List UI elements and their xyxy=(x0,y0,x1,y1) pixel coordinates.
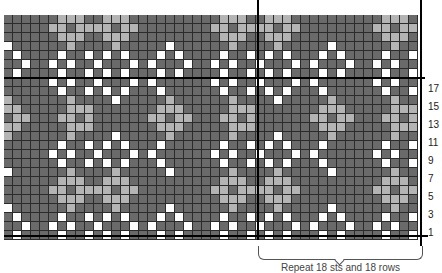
chart-cell xyxy=(4,186,13,195)
chart-cell xyxy=(274,132,283,141)
chart-cell xyxy=(67,186,76,195)
chart-cell xyxy=(283,105,292,114)
chart-cell xyxy=(355,78,364,87)
chart-cell xyxy=(265,123,274,132)
chart-cell xyxy=(13,114,22,123)
chart-cell xyxy=(355,51,364,60)
chart-cell xyxy=(373,132,382,141)
chart-cell xyxy=(319,60,328,69)
chart-cell xyxy=(184,186,193,195)
chart-cell xyxy=(4,87,13,96)
chart-cell xyxy=(310,78,319,87)
chart-cell xyxy=(67,87,76,96)
chart-cell xyxy=(193,60,202,69)
chart-cell xyxy=(139,51,148,60)
chart-cell xyxy=(103,24,112,33)
chart-cell xyxy=(103,42,112,51)
chart-cell xyxy=(193,15,202,24)
chart-cell xyxy=(13,78,22,87)
chart-cell xyxy=(265,24,274,33)
chart-cell xyxy=(94,114,103,123)
chart-cell xyxy=(67,96,76,105)
chart-cell xyxy=(310,105,319,114)
chart-cell xyxy=(301,78,310,87)
chart-cell xyxy=(166,60,175,69)
chart-cell xyxy=(130,213,139,222)
chart-cell xyxy=(274,123,283,132)
chart-cell xyxy=(391,51,400,60)
chart-cell xyxy=(319,78,328,87)
chart-cell xyxy=(31,186,40,195)
knitting-chart-grid xyxy=(4,15,418,240)
chart-cell xyxy=(355,141,364,150)
chart-cell xyxy=(103,33,112,42)
chart-cell xyxy=(382,195,391,204)
chart-cell xyxy=(4,42,13,51)
chart-cell xyxy=(346,195,355,204)
chart-cell xyxy=(193,24,202,33)
chart-cell xyxy=(31,33,40,42)
chart-cell xyxy=(274,15,283,24)
chart-cell xyxy=(319,159,328,168)
chart-cell xyxy=(220,168,229,177)
chart-cell xyxy=(247,177,256,186)
chart-cell xyxy=(175,132,184,141)
chart-cell xyxy=(292,204,301,213)
chart-cell xyxy=(220,141,229,150)
chart-cell xyxy=(112,168,121,177)
chart-cell xyxy=(265,105,274,114)
chart-cell xyxy=(175,24,184,33)
chart-cell xyxy=(283,33,292,42)
chart-cell xyxy=(265,213,274,222)
chart-cell xyxy=(229,195,238,204)
chart-cell xyxy=(49,78,58,87)
chart-cell xyxy=(337,195,346,204)
chart-cell xyxy=(13,132,22,141)
chart-cell xyxy=(238,33,247,42)
chart-cell xyxy=(148,87,157,96)
chart-cell xyxy=(4,204,13,213)
chart-cell xyxy=(247,24,256,33)
chart-cell xyxy=(355,114,364,123)
chart-cell xyxy=(85,123,94,132)
chart-cell xyxy=(310,123,319,132)
chart-cell xyxy=(238,141,247,150)
chart-cell xyxy=(211,168,220,177)
chart-cell xyxy=(139,213,148,222)
chart-cell xyxy=(130,15,139,24)
chart-cell xyxy=(310,24,319,33)
chart-cell xyxy=(265,186,274,195)
chart-cell xyxy=(112,114,121,123)
chart-cell xyxy=(58,60,67,69)
chart-cell xyxy=(40,33,49,42)
chart-cell xyxy=(58,33,67,42)
chart-cell xyxy=(283,186,292,195)
chart-cell xyxy=(58,51,67,60)
chart-cell xyxy=(247,96,256,105)
chart-cell xyxy=(373,24,382,33)
chart-cell xyxy=(76,24,85,33)
chart-cell xyxy=(409,132,418,141)
chart-cell xyxy=(13,24,22,33)
chart-cell xyxy=(265,177,274,186)
chart-cell xyxy=(13,15,22,24)
chart-cell xyxy=(319,114,328,123)
chart-cell xyxy=(382,33,391,42)
chart-cell xyxy=(139,150,148,159)
chart-cell xyxy=(283,87,292,96)
chart-cell xyxy=(130,123,139,132)
chart-cell xyxy=(238,177,247,186)
chart-cell xyxy=(220,222,229,231)
chart-cell xyxy=(166,150,175,159)
chart-cell xyxy=(211,222,220,231)
chart-cell xyxy=(193,159,202,168)
chart-cell xyxy=(373,15,382,24)
chart-cell xyxy=(121,213,130,222)
chart-cell xyxy=(85,15,94,24)
chart-cell xyxy=(112,177,121,186)
chart-cell xyxy=(292,15,301,24)
chart-cell xyxy=(400,186,409,195)
chart-cell xyxy=(328,96,337,105)
chart-cell xyxy=(283,204,292,213)
chart-cell xyxy=(355,87,364,96)
